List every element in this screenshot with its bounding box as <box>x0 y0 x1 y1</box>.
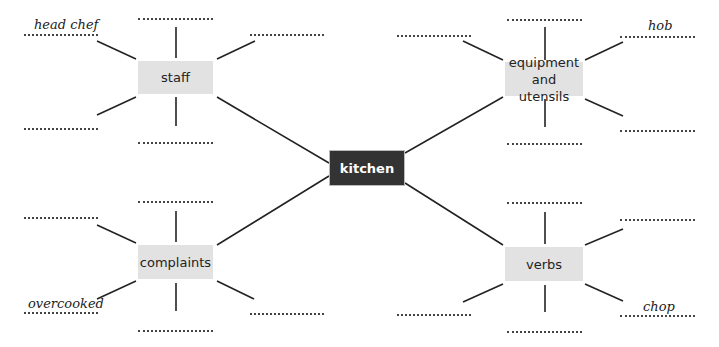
branch-label-verbs: verbs <box>526 256 562 273</box>
branch-node-equipment: equipment and utensils <box>505 62 583 96</box>
answer-blank[interactable] <box>138 18 213 20</box>
answer-blank[interactable] <box>397 35 471 37</box>
branch-label-staff: staff <box>161 69 190 86</box>
branch-node-complaints: complaints <box>138 245 213 279</box>
example-answer-verbs: chop <box>643 299 675 314</box>
answer-blank[interactable] <box>397 314 471 316</box>
center-node-kitchen: kitchen <box>329 150 405 186</box>
answer-blank[interactable] <box>24 217 98 219</box>
answer-blank[interactable] <box>620 219 695 221</box>
answer-blank[interactable] <box>138 201 213 203</box>
answer-blank[interactable] <box>250 313 324 315</box>
answer-blank[interactable] <box>507 331 582 333</box>
answer-blank[interactable] <box>24 312 98 314</box>
branch-node-verbs: verbs <box>505 247 583 281</box>
answer-blank[interactable] <box>138 330 213 332</box>
center-node-label: kitchen <box>340 160 394 177</box>
answer-blank[interactable] <box>620 130 695 132</box>
branch-node-staff: staff <box>138 61 213 94</box>
example-answer-staff: head chef <box>34 17 98 32</box>
answer-blank[interactable] <box>507 143 582 145</box>
answer-blank[interactable] <box>507 202 582 204</box>
branch-label-complaints: complaints <box>140 254 211 271</box>
example-answer-equipment: hob <box>648 18 673 33</box>
answer-blank[interactable] <box>620 315 695 317</box>
answer-blank[interactable] <box>24 128 98 130</box>
branch-label-equipment: equipment and utensils <box>505 54 583 105</box>
answer-blank[interactable] <box>138 142 213 144</box>
answer-blank[interactable] <box>24 34 98 36</box>
answer-blank[interactable] <box>620 36 695 38</box>
answer-blank[interactable] <box>250 34 324 36</box>
answer-blank[interactable] <box>507 19 582 21</box>
example-answer-complaints: overcooked <box>28 296 104 311</box>
